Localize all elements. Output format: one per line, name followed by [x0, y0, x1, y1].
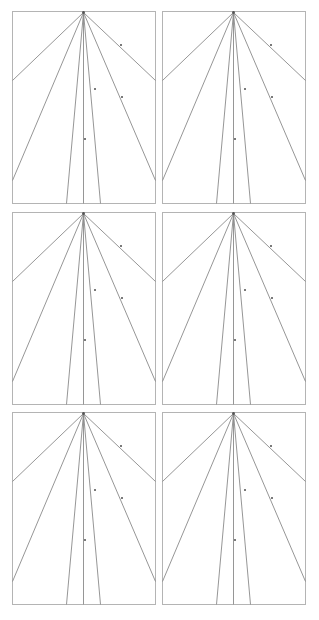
panel-border [13, 213, 156, 405]
ray-lower-left [163, 414, 234, 582]
ray-upper-right [84, 13, 156, 81]
marker-inner-right [244, 289, 246, 291]
ray-lower-left [13, 214, 84, 382]
ray-lower-right [234, 13, 306, 181]
ray-inner-right [234, 214, 251, 405]
panel-4 [162, 212, 305, 404]
panel-border [163, 12, 306, 204]
ray-upper-left [163, 13, 234, 81]
ray-lower-left [163, 13, 234, 181]
marker-center [234, 138, 236, 140]
marker-inner-right [244, 88, 246, 90]
marker-center [84, 539, 86, 541]
ray-lower-right [84, 13, 156, 181]
apex-point [232, 412, 235, 415]
ray-lower-right [234, 414, 306, 582]
panel-2 [162, 11, 305, 203]
ray-inner-left [67, 414, 84, 605]
ray-inner-right [84, 13, 101, 204]
ray-inner-left [67, 214, 84, 405]
ray-inner-left [217, 414, 234, 605]
marker-center [234, 539, 236, 541]
ray-upper-left [13, 13, 84, 81]
panel-border [163, 213, 306, 405]
panel-6 [162, 412, 305, 604]
marker-center [84, 339, 86, 341]
marker-lower-right [271, 96, 273, 98]
ray-lower-right [84, 414, 156, 582]
panel-border [13, 413, 156, 605]
ray-lower-left [163, 214, 234, 382]
ray-inner-left [67, 13, 84, 204]
ray-lower-right [84, 214, 156, 382]
marker-inner-right [94, 88, 96, 90]
marker-inner-right [244, 489, 246, 491]
marker-center [84, 138, 86, 140]
marker-inner-right [94, 289, 96, 291]
marker-upper-right [120, 245, 122, 247]
ray-upper-right [234, 414, 306, 482]
panel-1 [12, 11, 155, 203]
apex-point [82, 412, 85, 415]
marker-lower-right [121, 497, 123, 499]
ray-inner-right [84, 414, 101, 605]
ray-lower-left [13, 13, 84, 181]
apex-point [232, 212, 235, 215]
diagram-svg [162, 212, 306, 405]
ray-lower-left [13, 414, 84, 582]
ray-upper-right [84, 414, 156, 482]
ray-inner-right [234, 13, 251, 204]
ray-inner-right [84, 214, 101, 405]
apex-point [82, 212, 85, 215]
marker-lower-right [271, 497, 273, 499]
marker-lower-right [121, 96, 123, 98]
ray-lower-right [234, 214, 306, 382]
marker-upper-right [270, 445, 272, 447]
diagram-svg [162, 412, 306, 605]
ray-upper-right [234, 214, 306, 282]
ray-upper-right [84, 214, 156, 282]
panel-border [13, 12, 156, 204]
ray-upper-left [13, 214, 84, 282]
diagram-svg [162, 11, 306, 204]
apex-point [82, 11, 85, 14]
marker-upper-right [270, 44, 272, 46]
ray-inner-left [217, 214, 234, 405]
apex-point [232, 11, 235, 14]
panel-3 [12, 212, 155, 404]
ray-inner-left [217, 13, 234, 204]
marker-lower-right [271, 297, 273, 299]
diagram-svg [12, 11, 156, 204]
ray-upper-right [234, 13, 306, 81]
marker-upper-right [270, 245, 272, 247]
marker-inner-right [94, 489, 96, 491]
panel-5 [12, 412, 155, 604]
ray-inner-right [234, 414, 251, 605]
marker-center [234, 339, 236, 341]
marker-upper-right [120, 445, 122, 447]
diagram-svg [12, 412, 156, 605]
ray-upper-left [13, 414, 84, 482]
diagram-svg [12, 212, 156, 405]
panel-border [163, 413, 306, 605]
marker-lower-right [121, 297, 123, 299]
ray-upper-left [163, 214, 234, 282]
ray-upper-left [163, 414, 234, 482]
marker-upper-right [120, 44, 122, 46]
